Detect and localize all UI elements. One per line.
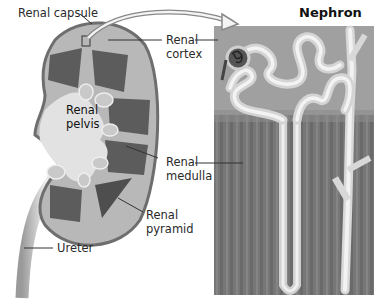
label-renal-cortex: Renal cortex	[166, 33, 202, 61]
label-renal-medulla-line1: Renal	[166, 155, 212, 169]
label-renal-pyramid-line2: pyramid	[146, 222, 194, 236]
kidney-nephron-diagram: Nephron Renal capsule Renal cortex Renal…	[0, 0, 385, 303]
nephron-title: Nephron	[299, 5, 362, 20]
label-renal-pelvis: Renal pelvis	[66, 103, 100, 131]
label-ureter: Ureter	[57, 241, 93, 255]
label-renal-medulla: Renal medulla	[166, 155, 212, 183]
kidney-cross-section	[22, 23, 158, 298]
label-renal-cortex-line2: cortex	[166, 47, 202, 61]
label-renal-medulla-line2: medulla	[166, 169, 212, 183]
label-renal-pelvis-line1: Renal	[66, 103, 100, 117]
label-renal-pyramid: Renal pyramid	[146, 208, 194, 236]
nephron-panel	[214, 26, 374, 295]
label-renal-cortex-line1: Renal	[166, 33, 202, 47]
label-renal-pelvis-line2: pelvis	[66, 117, 100, 131]
label-renal-pyramid-line1: Renal	[146, 208, 194, 222]
label-renal-capsule: Renal capsule	[18, 6, 98, 20]
